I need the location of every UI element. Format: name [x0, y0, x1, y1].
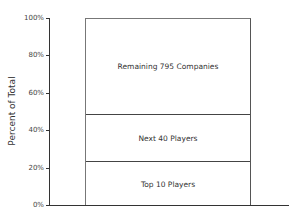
y-tick-label: 0%	[33, 201, 44, 209]
segment-label: Next 40 Players	[138, 134, 197, 143]
y-tick-label: 40%	[28, 126, 44, 134]
segment-top-10: Top 10 Players	[86, 161, 250, 207]
segment-remaining-companies: Remaining 795 Companies	[86, 19, 250, 114]
segment-label: Remaining 795 Companies	[118, 62, 219, 71]
y-tick-label: 20%	[28, 164, 44, 172]
y-tick-60	[46, 93, 50, 94]
stacked-bar-chart: Percent of Total 0% 20% 40% 60% 80% 100%…	[0, 0, 297, 216]
y-tick-label: 80%	[28, 51, 44, 59]
y-tick-0	[46, 205, 50, 206]
y-tick-label: 60%	[28, 89, 44, 97]
y-axis-label: Percent of Total	[7, 71, 17, 151]
stacked-bar: Remaining 795 Companies Next 40 Players …	[85, 18, 251, 205]
segment-next-40: Next 40 Players	[86, 114, 250, 162]
y-tick-40	[46, 130, 50, 131]
y-tick-80	[46, 55, 50, 56]
y-tick-20	[46, 168, 50, 169]
y-tick-100	[46, 18, 50, 19]
segment-label: Top 10 Players	[141, 180, 195, 189]
y-axis	[49, 18, 50, 206]
y-tick-label: 100%	[24, 14, 44, 22]
